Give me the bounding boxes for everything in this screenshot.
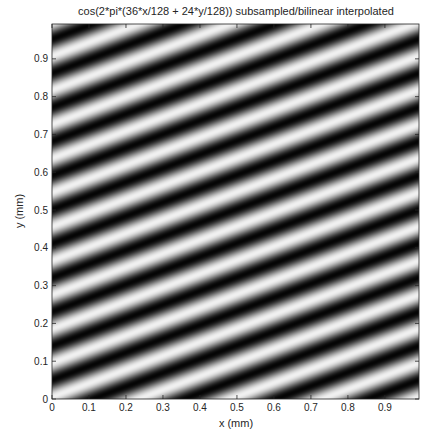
y-tick-label: 0.8 xyxy=(34,91,48,102)
x-tick-label: 0.9 xyxy=(378,402,392,413)
y-axis-label: y (mm) xyxy=(13,194,25,228)
y-tick-label: 0.5 xyxy=(34,205,48,216)
x-tick-label: 0.5 xyxy=(230,402,244,413)
x-tick-label: 0 xyxy=(49,402,55,413)
x-tick-label: 0.3 xyxy=(156,402,170,413)
y-tick-label: 0.2 xyxy=(34,318,48,329)
x-axis-label: x (mm) xyxy=(219,417,253,429)
chart-title: cos(2*pi*(36*x/128 + 24*y/128)) subsampl… xyxy=(78,5,394,17)
x-tick-label: 0.7 xyxy=(304,402,318,413)
y-tick-label: 0 xyxy=(42,394,48,405)
y-tick-label: 0.3 xyxy=(34,280,48,291)
x-tick-label: 0.1 xyxy=(82,402,96,413)
y-tick-label: 0.7 xyxy=(34,129,48,140)
y-tick-label: 0.1 xyxy=(34,356,48,367)
x-tick-label: 0.6 xyxy=(267,402,281,413)
x-tick-label: 0.4 xyxy=(193,402,207,413)
figure: cos(2*pi*(36*x/128 + 24*y/128)) subsampl… xyxy=(0,0,436,430)
x-tick-label: 0.2 xyxy=(119,402,133,413)
heatmap-image xyxy=(52,24,419,399)
x-tick-label: 0.8 xyxy=(341,402,355,413)
y-tick-label: 0.6 xyxy=(34,167,48,178)
y-tick-label: 0.4 xyxy=(34,242,48,253)
y-tick-label: 0.9 xyxy=(34,53,48,64)
